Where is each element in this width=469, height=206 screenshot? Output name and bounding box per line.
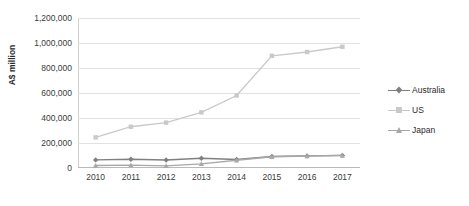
legend-label: US xyxy=(410,105,424,115)
data-point xyxy=(305,50,309,54)
x-tick-label: 2012 xyxy=(157,172,176,182)
series-line-us xyxy=(96,47,343,138)
y-tick-label: 1,200,000 xyxy=(14,13,72,23)
legend-item-australia[interactable]: Australia xyxy=(388,80,468,100)
x-tick-label: 2017 xyxy=(333,172,352,182)
y-tick-label: 0 xyxy=(14,163,72,173)
legend-item-japan[interactable]: Japan xyxy=(388,120,468,140)
y-tick-label: 1,000,000 xyxy=(14,38,72,48)
triangle-marker-icon xyxy=(388,124,410,136)
data-point xyxy=(199,156,204,161)
x-tick-label: 2014 xyxy=(227,172,246,182)
data-point xyxy=(199,110,203,114)
data-point xyxy=(93,135,97,139)
square-marker-icon xyxy=(388,104,410,116)
y-axis-tick-labels: 0200,000400,000600,000800,0001,000,0001,… xyxy=(14,0,72,206)
y-tick-label: 400,000 xyxy=(14,113,72,123)
legend-label: Australia xyxy=(410,85,445,95)
data-point xyxy=(270,54,274,58)
data-point xyxy=(128,157,133,162)
legend-item-us[interactable]: US xyxy=(388,100,468,120)
x-tick-label: 2016 xyxy=(298,172,317,182)
y-tick-label: 200,000 xyxy=(14,138,72,148)
data-point xyxy=(234,93,238,97)
diamond-marker-icon xyxy=(388,84,410,96)
line-chart: A$ million 0200,000400,000600,000800,000… xyxy=(0,0,469,206)
data-point xyxy=(129,125,133,129)
data-point xyxy=(163,157,168,162)
x-tick-label: 2013 xyxy=(192,172,211,182)
x-tick-label: 2011 xyxy=(122,172,140,182)
data-point xyxy=(93,157,98,162)
series-layer xyxy=(78,18,360,168)
legend-label: Japan xyxy=(410,125,435,135)
data-point xyxy=(340,45,344,49)
y-tick-label: 800,000 xyxy=(14,63,72,73)
y-tick-label: 600,000 xyxy=(14,88,72,98)
x-tick-label: 2010 xyxy=(86,172,105,182)
x-tick-label: 2015 xyxy=(262,172,281,182)
data-point xyxy=(164,120,168,124)
plot-area xyxy=(78,18,360,168)
chart-legend: AustraliaUSJapan xyxy=(388,80,468,140)
x-axis-tick-labels: 20102011201220132014201520162017 xyxy=(78,172,360,194)
